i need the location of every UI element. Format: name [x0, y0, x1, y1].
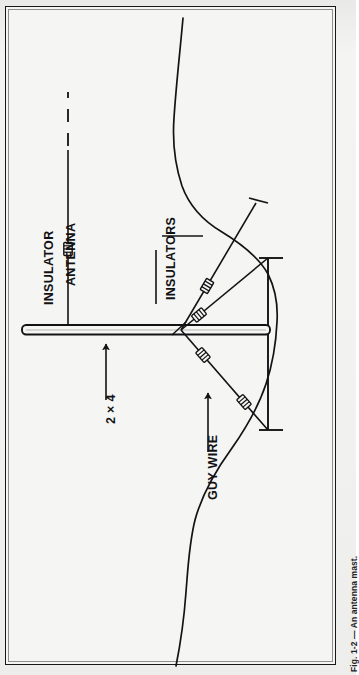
- label-insulator: INSULATOR: [42, 231, 56, 305]
- guy-wire-3: [181, 330, 268, 430]
- label-insulators: INSULATORS: [164, 217, 178, 300]
- guy-wire-1: [181, 258, 268, 330]
- label-2x4: 2 × 4: [104, 394, 118, 424]
- mast: [22, 325, 270, 335]
- terrain-profile: [173, 18, 277, 666]
- figure-caption: Fig. 1-2 — An antenna mast.: [349, 556, 359, 672]
- ground-line: [259, 258, 283, 430]
- insulator-guy-2: [200, 278, 214, 293]
- label-guy-wire: GUY WIRE: [206, 435, 220, 500]
- label-antenna: ANTENNA: [64, 223, 78, 286]
- guy-wire-2: [181, 198, 268, 330]
